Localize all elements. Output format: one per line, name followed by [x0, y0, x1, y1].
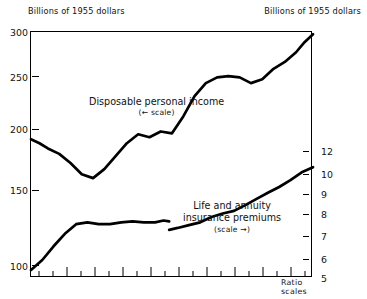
left-axis-tick-150: 150 [10, 185, 31, 196]
right-axis-tick-5: 5 [311, 273, 327, 284]
right-axis-tick-12: 12 [311, 146, 333, 157]
right-axis-tick-label-12: 12 [321, 146, 333, 157]
plot-area: 300 250 200 150 100 12 10 9 8 7 6 5 [30, 31, 312, 277]
right-axis-caption: Billions of 1955 dollars [264, 6, 361, 16]
series-curves [31, 32, 313, 278]
series-label-disposable-personal-income: Disposable personal income (← scale) [89, 96, 224, 118]
series-label-text-line2: insurance premiums [183, 212, 281, 223]
right-axis-tick-label-10: 10 [321, 169, 333, 180]
right-axis-tick-10: 10 [311, 169, 333, 180]
right-axis-tick-label-5: 5 [321, 273, 327, 284]
series-label-text: Disposable personal income [89, 96, 224, 107]
right-axis-tick-7: 7 [311, 231, 327, 242]
left-axis-tick-250: 250 [10, 71, 31, 82]
left-axis-tick-label-150: 150 [10, 185, 28, 196]
series-label-life-annuity-premiums: Life and annuity insurance premiums (sca… [183, 200, 281, 234]
left-axis-tick-300: 300 [10, 27, 31, 38]
chart-container: Billions of 1955 dollars Billions of 195… [0, 0, 367, 299]
right-axis-tick-label-6: 6 [321, 254, 327, 265]
right-axis-tick-6: 6 [311, 254, 327, 265]
series-line-life-annuity-premiums-segment-1 [31, 221, 169, 270]
left-axis-tick-200: 200 [10, 124, 31, 135]
left-axis-caption: Billions of 1955 dollars [28, 6, 125, 16]
series-scale-note: (scale →) [183, 225, 281, 235]
series-scale-note: (← scale) [89, 108, 224, 118]
left-axis-tick-label-100: 100 [10, 260, 28, 271]
right-axis-tick-label-9: 9 [321, 189, 327, 200]
right-axis-tick-9: 9 [311, 189, 327, 200]
left-axis-tick-label-250: 250 [10, 71, 28, 82]
series-label-text-line1: Life and annuity [193, 200, 271, 211]
left-axis-tick-label-200: 200 [10, 124, 28, 135]
right-axis-tick-8: 8 [311, 209, 327, 220]
left-axis-tick-100: 100 [10, 260, 31, 271]
right-axis-tick-label-8: 8 [321, 209, 327, 220]
right-axis-tick-label-7: 7 [321, 231, 327, 242]
ratio-scales-note: Ratio scales [281, 278, 311, 296]
left-axis-tick-label-300: 300 [10, 27, 28, 38]
